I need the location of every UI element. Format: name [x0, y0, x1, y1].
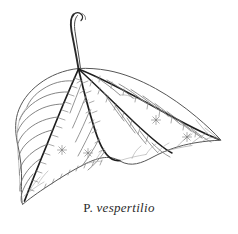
- caption-text: P. vespertilio: [83, 200, 154, 215]
- caption-species: vespertilio: [97, 200, 155, 215]
- star-mark: [183, 133, 192, 142]
- star-mark: [84, 149, 93, 158]
- star-mark: [152, 116, 161, 125]
- caption-genus: P.: [83, 200, 93, 215]
- figure-caption: P. vespertilio: [0, 198, 238, 216]
- petiole: [71, 13, 86, 69]
- star-mark: [58, 146, 67, 155]
- leaf-blade-outline: [16, 68, 221, 204]
- illustration-plate: P. vespertilio: [0, 0, 238, 234]
